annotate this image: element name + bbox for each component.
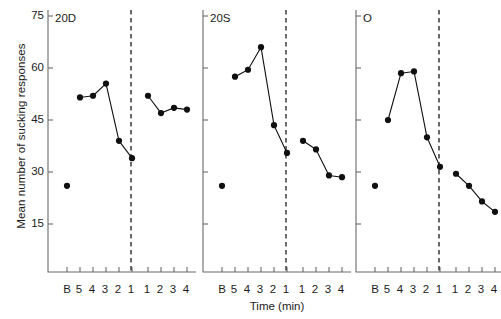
x-tick-label-3: 3 bbox=[98, 283, 112, 295]
pre-point-2 bbox=[258, 44, 264, 50]
pre-point-4 bbox=[284, 150, 290, 156]
x-tick-label-post-1: 1 bbox=[295, 283, 309, 295]
x-tick-label-4: 4 bbox=[393, 283, 407, 295]
x-tick-label-3: 3 bbox=[406, 283, 420, 295]
y-tick-label-30: 30 bbox=[18, 165, 44, 177]
x-tick-label-post-1: 1 bbox=[448, 283, 462, 295]
panel-title-20S: 20S bbox=[210, 12, 230, 24]
pre-point-4 bbox=[129, 155, 135, 161]
x-tick-label-3: 3 bbox=[253, 283, 267, 295]
pre-point-0 bbox=[77, 94, 83, 100]
y-tick-label-45: 45 bbox=[18, 113, 44, 125]
post-point-3 bbox=[492, 209, 498, 215]
pre-point-0 bbox=[232, 74, 238, 80]
x-tick-label-post-2: 2 bbox=[461, 283, 475, 295]
pre-point-4 bbox=[437, 164, 443, 170]
panel-title-O: O bbox=[363, 12, 372, 24]
pre-point-3 bbox=[271, 122, 277, 128]
x-tick-label-5: 5 bbox=[227, 283, 241, 295]
baseline-point bbox=[64, 183, 70, 189]
x-tick-label-post-1: 1 bbox=[140, 283, 154, 295]
x-tick-label-5: 5 bbox=[72, 283, 86, 295]
x-tick-label-5: 5 bbox=[380, 283, 394, 295]
post-point-0 bbox=[300, 138, 306, 144]
post-point-0 bbox=[145, 93, 151, 99]
pre-point-0 bbox=[385, 117, 391, 123]
pre-point-1 bbox=[90, 93, 96, 99]
x-tick-label-1: 1 bbox=[279, 283, 293, 295]
pre-line bbox=[80, 84, 132, 159]
y-tick-label-75: 75 bbox=[18, 9, 44, 21]
panel-title-20D: 20D bbox=[55, 12, 76, 24]
baseline-point bbox=[372, 183, 378, 189]
pre-line bbox=[388, 71, 440, 166]
pre-point-2 bbox=[411, 68, 417, 74]
x-tick-label-2: 2 bbox=[266, 283, 280, 295]
baseline-point bbox=[219, 183, 225, 189]
panel-O: O B 5 4 3 2 1 1 2 3 4 bbox=[308, 0, 490, 319]
y-tick-label-15: 15 bbox=[18, 217, 44, 229]
pre-line bbox=[235, 47, 287, 153]
post-point-1 bbox=[466, 183, 472, 189]
pre-point-3 bbox=[424, 134, 430, 140]
x-tick-label-4: 4 bbox=[240, 283, 254, 295]
x-tick-label-4: 4 bbox=[85, 283, 99, 295]
x-tick-label-post-4: 4 bbox=[487, 283, 501, 295]
pre-point-1 bbox=[245, 67, 251, 73]
post-point-0 bbox=[453, 171, 459, 177]
pre-point-1 bbox=[398, 70, 404, 76]
x-tick-label-1: 1 bbox=[432, 283, 446, 295]
plot-area-20D bbox=[0, 0, 180, 319]
pre-point-2 bbox=[103, 81, 109, 87]
x-tick-label-post-3: 3 bbox=[474, 283, 488, 295]
post-line bbox=[456, 174, 495, 212]
x-tick-label-2: 2 bbox=[419, 283, 433, 295]
x-tick-label-1: 1 bbox=[124, 283, 138, 295]
post-point-2 bbox=[479, 198, 485, 204]
plot-area-O bbox=[308, 0, 490, 319]
pre-point-3 bbox=[116, 138, 122, 144]
y-tick-label-60: 60 bbox=[18, 61, 44, 73]
x-tick-label-2: 2 bbox=[111, 283, 125, 295]
panel-20D: 20D 75 60 45 30 15 B 5 4 3 2 1 1 2 3 4 bbox=[0, 0, 180, 319]
